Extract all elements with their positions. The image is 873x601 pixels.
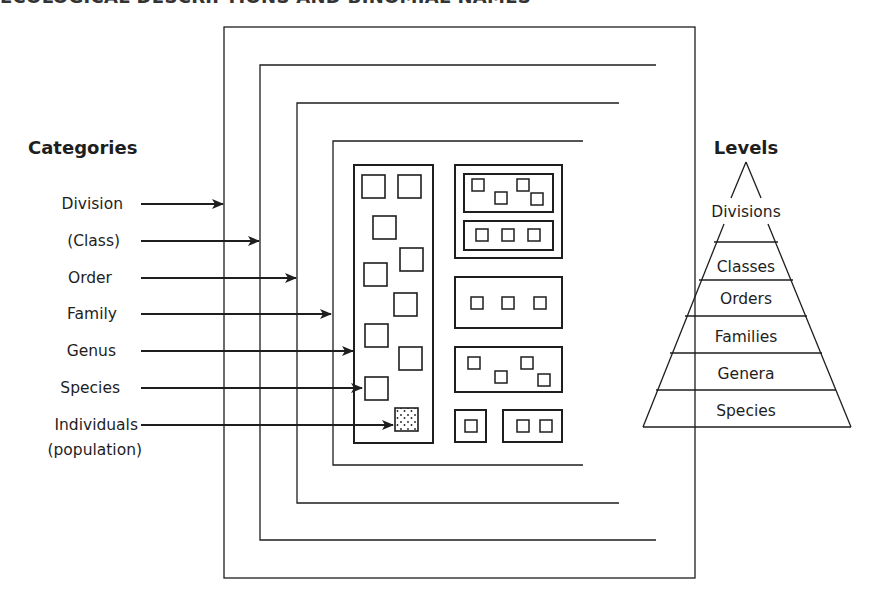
category-label-division: Division	[62, 195, 123, 213]
species-square	[398, 175, 421, 198]
species-square	[517, 179, 529, 191]
category-arrows	[141, 204, 393, 425]
individuals-square-dotted	[395, 408, 418, 431]
species-square	[540, 420, 552, 432]
species-square	[399, 347, 422, 370]
frame-class	[260, 65, 656, 540]
species-square	[502, 229, 514, 241]
species-square	[365, 324, 388, 347]
genus-box-c	[455, 347, 562, 392]
species-square	[517, 420, 529, 432]
species-square	[394, 293, 417, 316]
species-square	[465, 420, 477, 432]
species-square	[528, 229, 540, 241]
category-label-individuals: Individuals	[54, 416, 138, 434]
category-label-order: Order	[68, 269, 113, 287]
species-square	[373, 216, 396, 239]
level-families: Families	[715, 328, 778, 346]
taxonomy-diagram: Categories Division (Class) Order Family…	[0, 0, 873, 601]
category-label-class: (Class)	[67, 232, 120, 250]
frame-division	[224, 27, 695, 578]
category-label-population: (population)	[47, 441, 142, 459]
species-square	[502, 297, 514, 309]
species-square	[472, 179, 484, 191]
category-label-species: Species	[60, 379, 120, 397]
levels-heading: Levels	[714, 137, 779, 158]
species-square	[476, 229, 488, 241]
categories-heading: Categories	[28, 137, 137, 158]
species-square	[531, 193, 543, 205]
species-square	[365, 377, 388, 400]
species-square	[400, 248, 423, 271]
level-classes: Classes	[717, 258, 775, 276]
genus-box-a	[455, 165, 562, 258]
species-square	[471, 297, 483, 309]
level-species: Species	[716, 402, 776, 420]
level-divisions: Divisions	[711, 203, 781, 221]
level-labels: Divisions Classes Orders Families Genera…	[711, 203, 781, 420]
species-square	[468, 357, 480, 369]
nested-frames	[224, 27, 695, 578]
genus-box-b	[455, 277, 562, 328]
level-orders: Orders	[720, 290, 772, 308]
level-genera: Genera	[718, 365, 775, 383]
genus-box-d	[455, 410, 486, 442]
species-square	[521, 357, 533, 369]
species-square	[534, 297, 546, 309]
category-labels: Division (Class) Order Family Genus Spec…	[47, 195, 142, 459]
species-square	[495, 192, 507, 204]
species-square	[364, 263, 387, 286]
genus-box-e	[503, 410, 562, 442]
species-square	[538, 374, 550, 386]
species-square	[495, 371, 507, 383]
genus-box-tall	[354, 165, 433, 443]
category-label-family: Family	[67, 305, 117, 323]
species-square	[362, 175, 385, 198]
category-label-genus: Genus	[67, 342, 116, 360]
